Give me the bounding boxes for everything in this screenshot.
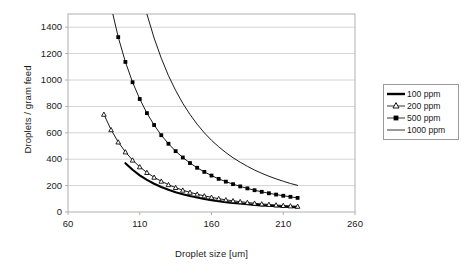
legend-label: 1000 ppm bbox=[406, 125, 445, 135]
plot-frame bbox=[68, 14, 355, 212]
legend-label: 200 ppm bbox=[406, 101, 440, 111]
y-tick-label: 800 bbox=[22, 100, 62, 111]
x-tick-label: 60 bbox=[48, 218, 88, 229]
legend-item[interactable]: 100 ppm bbox=[386, 88, 455, 100]
x-tick-label: 260 bbox=[335, 218, 375, 229]
y-tick-label: 1200 bbox=[22, 48, 62, 59]
legend-key-100ppm bbox=[386, 88, 406, 100]
data-series-group bbox=[102, 0, 300, 208]
x-tick-label: 210 bbox=[263, 218, 303, 229]
legend-label: 100 ppm bbox=[406, 89, 440, 99]
x-tick-label: 110 bbox=[120, 218, 160, 229]
y-tick-label: 0 bbox=[22, 206, 62, 217]
legend-item[interactable]: 200 ppm bbox=[386, 100, 455, 112]
y-tick-label: 200 bbox=[22, 180, 62, 191]
x-tick-label: 160 bbox=[192, 218, 232, 229]
chart-legend: 100 ppm 200 ppm 500 ppm bbox=[383, 84, 459, 140]
legend-label: 500 ppm bbox=[406, 113, 440, 123]
legend-key-200ppm bbox=[386, 100, 406, 112]
y-tick-label: 400 bbox=[22, 153, 62, 164]
legend-key-500ppm bbox=[386, 112, 406, 124]
axis-ticks bbox=[65, 27, 355, 215]
legend-key-1000ppm bbox=[386, 124, 406, 136]
x-axis-title: Droplet size [um] bbox=[68, 248, 355, 259]
y-tick-label: 600 bbox=[22, 127, 62, 138]
y-tick-label: 1000 bbox=[22, 74, 62, 85]
legend-item[interactable]: 1000 ppm bbox=[386, 124, 455, 136]
chart-container: Droplets / gram feed Droplet size [um] 0… bbox=[0, 0, 468, 273]
gridlines bbox=[68, 27, 355, 185]
y-tick-label: 1400 bbox=[22, 21, 62, 32]
legend-item[interactable]: 500 ppm bbox=[386, 112, 455, 124]
